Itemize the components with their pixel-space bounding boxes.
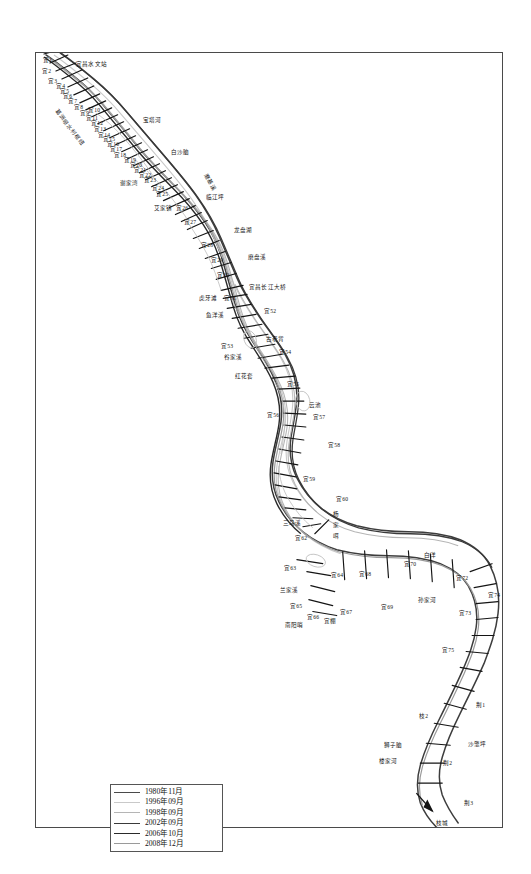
map-label-l76: 宜棚 — [324, 619, 336, 625]
legend-line-swatch — [114, 843, 140, 844]
map-label-l46: 古老背 — [266, 337, 285, 343]
map-label-l30: 宜25 — [156, 192, 168, 198]
bank-lines-1980 — [46, 53, 499, 827]
map-label-l79: 宜75 — [442, 648, 454, 654]
map-label-l60: 家 — [333, 523, 339, 529]
map-label-l85: 楼家河 — [379, 759, 398, 765]
bank-lines-2008 — [48, 57, 479, 805]
legend-line-swatch — [114, 823, 140, 824]
map-label-l86: 荆3 — [464, 801, 473, 807]
map-label-l66: 宜68 — [359, 572, 371, 578]
map-label-l15: 宝塔河 — [143, 118, 162, 124]
map-label-l39: 宜29 — [211, 258, 223, 264]
map-label-l72: 宜66 — [307, 615, 319, 621]
map-label-l53: 宜56 — [267, 413, 279, 419]
map-label-l33: 宜26 — [176, 206, 188, 212]
map-label-l71: 孙家河 — [418, 598, 437, 604]
legend-line-swatch — [114, 812, 140, 813]
map-label-l12: 宜10 — [88, 108, 100, 114]
legend-row-1: 1996年09月 — [114, 797, 219, 807]
map-label-l54: 宜57 — [313, 415, 325, 421]
legend-label: 2006年10月 — [145, 829, 184, 839]
map-label-l74: 宜69 — [381, 605, 393, 611]
map-label-l82: 沙氅坪 — [468, 742, 487, 748]
legend-line-swatch — [114, 802, 140, 803]
legend-row-4: 2006年10月 — [114, 829, 219, 839]
map-label-l34: 临江坪 — [206, 195, 225, 201]
legend-label: 1998年09月 — [145, 808, 184, 818]
map-label-l51: 宜55 — [287, 382, 299, 388]
map-label-l21: 白沙脑 — [171, 150, 190, 156]
map-label-l48: 谷家溪 — [224, 355, 243, 361]
map-label-l50: 红花套 — [235, 374, 254, 380]
map-label-l55: 宜58 — [328, 443, 340, 449]
map-label-l70: 宜65 — [290, 604, 302, 610]
map-label-l56: 宜59 — [303, 477, 315, 483]
map-label-l36: 龙盘湖 — [234, 228, 253, 234]
map-label-l65: 宜64 — [331, 573, 343, 579]
map-label-l27: 谢家湾 — [120, 181, 139, 187]
map-label-l75: 南阳哨 — [285, 623, 304, 629]
legend-label: 2002年09月 — [145, 818, 184, 828]
map-label-l77: 宜73 — [459, 611, 471, 617]
bank-lines-1998 — [52, 61, 458, 546]
map-label-l73: 宜67 — [340, 610, 352, 616]
map-label-l44: 宜52 — [264, 309, 276, 315]
map-label-l40: 宜30 — [217, 273, 229, 279]
map-label-l69: 兰家溪 — [280, 588, 299, 594]
map-label-l84: 荆2 — [443, 761, 452, 767]
map-label-l81: 枝2 — [419, 714, 428, 720]
map-label-l62: 咡 — [333, 534, 339, 540]
legend-line-swatch — [114, 833, 140, 834]
map-label-l35: 宜27 — [184, 220, 196, 226]
map-label-l67: 宜70 — [404, 562, 416, 568]
river-channel-drawing — [36, 53, 502, 827]
legend-row-3: 2002年09月 — [114, 818, 219, 828]
map-label-l47: 宜53 — [221, 344, 233, 350]
legend: 1980年11月1996年09月1998年09月2002年09月2006年10月… — [110, 784, 223, 852]
flow-arrow — [416, 793, 432, 811]
map-label-l61: 宜62 — [295, 536, 307, 542]
map-label-l78: 宜74 — [488, 593, 500, 599]
map-label-l41: 宜昌长江大桥 — [249, 285, 286, 291]
map-label-l32: 艾家镇 — [154, 206, 173, 212]
map-label-l52: 云池 — [309, 403, 321, 409]
map-label-l68: 宜72 — [456, 576, 468, 582]
map-label-l43: 宜51 — [224, 296, 236, 302]
map-label-l1: 宜1 — [43, 58, 52, 64]
map-label-l58: 杨 — [333, 512, 339, 518]
map-label-l2: 宜2 — [42, 69, 51, 75]
map-frame: 宜1宜2宜昌水文站宜3宜4宜5宜6宜7宜8葛洲坝水利枢纽宜9宜10宜11宜12宝… — [35, 52, 503, 828]
map-label-l28: 宜23 — [144, 178, 156, 184]
legend-row-2: 1998年09月 — [114, 808, 219, 818]
map-label-l42: 虎牙滩 — [199, 296, 218, 302]
map-label-l80: 荆1 — [476, 703, 485, 709]
map-label-l59: 三马溪 — [283, 521, 302, 527]
map-label-l38: 磨盘溪 — [248, 255, 267, 261]
map-label-l45: 鱼洋溪 — [206, 313, 225, 319]
map-label-l63: 白洋 — [424, 553, 436, 559]
legend-label: 1980年11月 — [145, 787, 184, 797]
bank-lines-2006 — [44, 57, 301, 534]
map-label-l87: 枝城 — [436, 821, 448, 827]
legend-row-0: 1980年11月 — [114, 787, 219, 797]
map-label-l49: 宜54 — [279, 350, 291, 356]
legend-label: 2008年12月 — [145, 839, 184, 849]
map-label-l37: 宜28 — [201, 243, 213, 249]
legend-line-swatch — [114, 792, 140, 793]
map-label-l3: 宜昌水文站 — [76, 62, 107, 68]
map-label-l83: 狮子脑 — [384, 743, 403, 749]
map-label-l64: 宜63 — [284, 566, 296, 572]
map-label-l57: 宜60 — [336, 497, 348, 503]
legend-row-5: 2008年12月 — [114, 839, 219, 849]
legend-label: 1996年09月 — [145, 797, 184, 807]
